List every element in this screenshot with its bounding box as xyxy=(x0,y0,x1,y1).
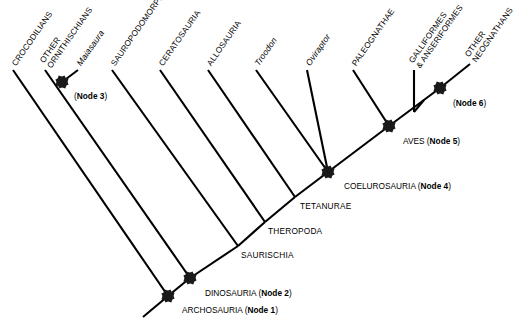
node-label-node3: (Node 3) xyxy=(74,91,107,101)
node-number: Node 1 xyxy=(247,305,275,315)
backbone-n4-n5 xyxy=(328,126,389,172)
node-clade-name: AVES xyxy=(403,136,425,146)
node-label-node6: (Node 6) xyxy=(453,98,486,108)
branch-crocodilians xyxy=(13,70,168,296)
cladogram-diagram: CROCODILIANSOTHERORNITHISCHIANSMaiasaura… xyxy=(0,0,518,319)
branch-paleognathae xyxy=(353,70,389,126)
clade-label-saurischia: SAURISCHIA xyxy=(241,250,294,260)
node-clade-name: COELUROSAURIA xyxy=(344,181,415,191)
branch-ornithischia-stem xyxy=(45,70,190,278)
clade-label-theropoda: THEROPODA xyxy=(268,226,322,236)
branch-allosauria xyxy=(208,70,295,197)
branch-sauropodomorpha xyxy=(112,70,238,246)
node-number: Node 6 xyxy=(456,98,484,108)
backbone-n2-saurischia xyxy=(190,246,238,278)
backbone-theropoda-tetanurae xyxy=(265,197,295,222)
node-clade-name: DINOSAURIA xyxy=(205,288,256,298)
clade-label-tetanurae: TETANURAE xyxy=(300,201,351,211)
node-clade-name: ARCHOSAURIA xyxy=(182,305,242,315)
node-label-node1: ARCHOSAURIA (Node 1) xyxy=(182,305,278,315)
node-label-node4: COELUROSAURIA (Node 4) xyxy=(344,181,451,191)
node-number: Node 4 xyxy=(421,181,449,191)
branch-ceratosauria xyxy=(160,70,265,222)
node-label-node2: DINOSAURIA (Node 2) xyxy=(205,288,292,298)
node-number: Node 2 xyxy=(261,288,289,298)
node-number: Node 5 xyxy=(430,136,458,146)
backbone-saurischia-theropoda xyxy=(238,222,265,246)
node-label-node5: AVES (Node 5) xyxy=(403,136,460,146)
cladogram-tree-graphic xyxy=(0,0,518,319)
node-number: Node 3 xyxy=(77,91,105,101)
